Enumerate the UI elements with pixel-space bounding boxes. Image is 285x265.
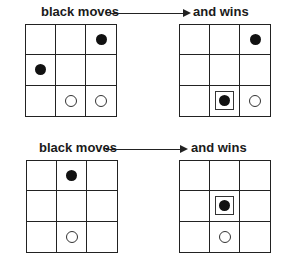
black-stone-icon [219, 200, 230, 211]
board-cell [180, 86, 210, 116]
board-cell [180, 191, 210, 221]
black-moves-label: black moves [39, 141, 117, 155]
arrow-icon [180, 145, 188, 153]
board-cell [240, 222, 270, 252]
board-cell [27, 191, 57, 221]
white-stone-icon [219, 231, 231, 243]
white-stone-icon [95, 95, 107, 107]
black-stone-icon [250, 34, 261, 45]
arrow-line [110, 13, 185, 14]
board-cell [56, 86, 86, 116]
board-cell [210, 55, 240, 85]
and-wins-label: and wins [193, 5, 249, 19]
board-cell [180, 161, 210, 191]
board-cell [240, 191, 270, 221]
board-cell [180, 25, 210, 55]
board-after [179, 24, 271, 117]
board-cell [27, 161, 57, 191]
board-cell [87, 161, 117, 191]
white-stone-icon [249, 95, 261, 107]
board-after [179, 160, 271, 253]
white-stone-icon [66, 231, 78, 243]
board-cell [57, 222, 87, 252]
board-cell [86, 25, 116, 55]
board-cell [27, 222, 57, 252]
arrow-icon [183, 9, 191, 17]
arrow-line [106, 149, 182, 150]
board-cell [240, 55, 270, 85]
board-cell [240, 86, 270, 116]
board-before [26, 160, 118, 253]
board-cell [240, 25, 270, 55]
black-stone-icon [66, 170, 77, 181]
board-cell [210, 191, 240, 221]
and-wins-label: and wins [191, 141, 247, 155]
black-stone-icon [219, 95, 230, 106]
board-cell [26, 86, 56, 116]
board-cell [86, 55, 116, 85]
board-cell [210, 222, 240, 252]
board-cell [180, 222, 210, 252]
board-cell [26, 25, 56, 55]
black-stone-icon [35, 64, 46, 75]
board-cell [57, 161, 87, 191]
board-cell [87, 222, 117, 252]
black-moves-label: black moves [41, 5, 119, 19]
board-cell [240, 161, 270, 191]
move-highlight [215, 91, 234, 110]
board-cell [180, 55, 210, 85]
board-cell [56, 25, 86, 55]
board-cell [210, 161, 240, 191]
board-cell [87, 191, 117, 221]
board-cell [57, 191, 87, 221]
board-cell [86, 86, 116, 116]
board-cell [26, 55, 56, 85]
white-stone-icon [65, 95, 77, 107]
board-cell [210, 86, 240, 116]
board-before [25, 24, 117, 117]
board-cell [210, 25, 240, 55]
board-cell [56, 55, 86, 85]
move-highlight [215, 196, 234, 215]
black-stone-icon [96, 34, 107, 45]
